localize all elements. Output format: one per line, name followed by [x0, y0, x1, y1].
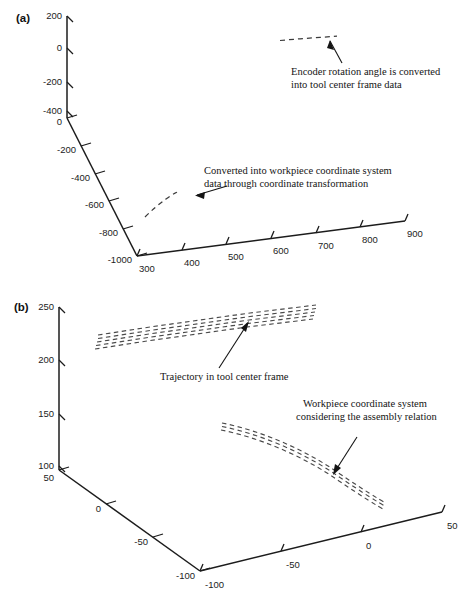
- panel-a-x-label-700: 700: [318, 240, 334, 251]
- panel-b-x-label-50: 50: [447, 520, 458, 531]
- panel-b-x-label-neg100: -100: [205, 579, 224, 590]
- panel-a-x-label-400: 400: [184, 257, 200, 268]
- panel-a-workpiece-annotation-line2: data through coordinate transformation: [204, 178, 369, 189]
- panel-b-x-label-0: 0: [366, 540, 371, 551]
- panel-a-z-tick-neg200: [67, 82, 73, 88]
- panel-a-encoder-annotation-line1: Encoder rotation angle is converted: [291, 66, 441, 77]
- panel-b-tool-center-trajectory-band: [95, 305, 316, 349]
- panel-a-y-label-neg200: -200: [57, 144, 76, 155]
- panel-b-y-label-neg50: -50: [134, 536, 148, 547]
- panel-b-z-tick-200: [59, 360, 65, 366]
- panel-b-y-label-0: 0: [96, 503, 101, 514]
- panel-a-y-label-neg400: -400: [71, 172, 90, 183]
- panel-b-z-label-150: 150: [38, 408, 54, 419]
- panel-a-x-label-600: 600: [273, 245, 289, 256]
- panel-a-z-label-200: 200: [46, 10, 62, 21]
- panel-a-y-tick-neg600: [109, 198, 119, 201]
- panel-b-z-tick-250: [59, 307, 65, 313]
- panel-a-y-tick-neg800: [123, 226, 133, 229]
- panel-a-x-label-800: 800: [362, 234, 378, 245]
- panel-a-x-tick-900: [405, 214, 408, 221]
- panel-b-z-label-50: 50: [43, 472, 54, 483]
- panel-a-z-tick-200: [67, 16, 73, 22]
- panel-b-z-label-200: 200: [38, 354, 54, 365]
- panel-b-label: (b): [14, 301, 29, 313]
- panel-b-assembly-annotation-line2: considering the assembly relation: [296, 411, 438, 422]
- panel-a-y-label-neg800: -800: [99, 227, 118, 238]
- figure-root: (a) 200 0 -200 -400 0 -200 -400 -600 -80…: [0, 0, 467, 599]
- panel-b-x-tick-50: [442, 505, 445, 512]
- panel-b-z-label-100: 100: [38, 460, 54, 471]
- panel-a-y-label-neg600: -600: [85, 199, 104, 210]
- panel-a-x-label-900: 900: [407, 228, 423, 239]
- panel-a-encoder-leader: [330, 41, 342, 63]
- panel-a-x-label-300: 300: [139, 263, 155, 274]
- panel-b-y-label-neg100: -100: [176, 570, 195, 581]
- panel-a-x-tick-400: [182, 243, 185, 250]
- panel-a-workpiece-arrowhead: [195, 192, 205, 199]
- panel-b: (b) 250 200 150 100 50 0 -50 -100 -100 -…: [0, 285, 467, 599]
- panel-b-assembly-annotation-line1: Workpiece coordinate system: [303, 398, 427, 409]
- panel-b-x-label-neg50: -50: [286, 559, 300, 570]
- panel-a-x-tick-500: [226, 237, 229, 244]
- panel-b-y-tick-0: [106, 501, 116, 504]
- panel-a-y-tick-neg200: [81, 143, 91, 146]
- panel-a: (a) 200 0 -200 -400 0 -200 -400 -600 -80…: [0, 0, 467, 285]
- panel-a-x-label-500: 500: [228, 251, 244, 262]
- panel-a-z-label-neg200: -200: [43, 76, 62, 87]
- panel-b-z-label-250: 250: [38, 301, 54, 312]
- panel-a-workpiece-annotation-line1: Converted into workpiece coordinate syst…: [204, 165, 392, 176]
- panel-a-y-tick-neg400: [95, 171, 105, 174]
- panel-b-x-axis: [200, 512, 442, 571]
- panel-a-y-label-0: 0: [57, 116, 62, 127]
- panel-a-z-tick-0: [67, 48, 73, 54]
- panel-a-tool-center-trajectory: [280, 36, 337, 40]
- panel-a-workpiece-trajectory: [145, 192, 177, 217]
- panel-a-z-label-neg400: -400: [43, 105, 62, 116]
- panel-b-z-tick-150: [59, 414, 65, 420]
- panel-a-encoder-annotation-line2: into tool center frame data: [291, 79, 402, 90]
- panel-a-x-tick-600: [271, 231, 274, 238]
- panel-a-z-label-0: 0: [57, 42, 62, 53]
- panel-b-y-axis: [59, 470, 200, 571]
- panel-b-workpiece-trajectory-band: [221, 423, 386, 510]
- panel-a-encoder-arrowhead: [327, 40, 334, 50]
- panel-a-label: (a): [16, 12, 30, 24]
- panel-b-y-tick-neg50: [153, 534, 163, 537]
- panel-b-tool-center-annotation-line1: Trajectory in tool center frame: [160, 371, 289, 382]
- panel-a-y-label-neg1000: -1000: [108, 254, 132, 265]
